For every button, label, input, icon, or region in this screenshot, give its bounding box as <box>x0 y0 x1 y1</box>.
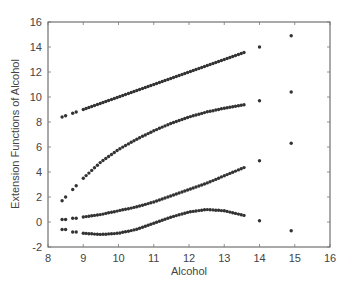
data-point <box>93 104 96 107</box>
scatter-chart: 8910111213141516 -20246810121416 Alcohol… <box>0 0 349 289</box>
y-tick-label: 16 <box>30 16 42 28</box>
x-tick-label: 11 <box>148 252 159 264</box>
data-point <box>84 174 87 177</box>
data-point <box>290 229 293 232</box>
y-tick-label: 4 <box>36 166 42 178</box>
data-point <box>113 210 116 213</box>
data-point <box>208 208 211 211</box>
data-point <box>138 136 141 139</box>
data-point <box>258 219 261 222</box>
data-point <box>60 115 63 118</box>
x-tick-label: 13 <box>218 252 230 264</box>
data-point <box>132 206 135 209</box>
data-point <box>93 214 96 217</box>
data-point <box>138 204 141 207</box>
data-point <box>75 230 78 233</box>
y-tick-label: 2 <box>36 191 42 203</box>
data-point <box>240 213 243 216</box>
data-point <box>177 191 180 194</box>
data-point <box>290 142 293 145</box>
data-point <box>124 230 127 233</box>
data-point <box>177 119 180 122</box>
data-point <box>64 218 67 221</box>
data-point <box>93 232 96 235</box>
data-point <box>64 114 67 117</box>
data-point <box>107 99 110 102</box>
data-point <box>101 159 104 162</box>
x-tick-labels: 8910111213141516 <box>45 252 336 264</box>
data-point <box>234 105 237 108</box>
data-point <box>60 199 63 202</box>
data-point <box>186 211 189 214</box>
data-point <box>93 166 96 169</box>
data-point <box>113 151 116 154</box>
data-point <box>194 209 197 212</box>
x-tick-label: 15 <box>289 252 301 264</box>
data-point <box>64 195 67 198</box>
data-point <box>118 209 121 212</box>
data-point <box>71 217 74 220</box>
data-point <box>104 212 107 215</box>
data-point <box>115 149 118 152</box>
y-tick-label: -2 <box>32 241 42 253</box>
data-point <box>127 207 130 210</box>
data-point <box>90 169 93 172</box>
data-point <box>290 90 293 93</box>
data-point <box>234 54 237 57</box>
data-point <box>242 214 245 217</box>
data-point <box>234 169 237 172</box>
data-point <box>163 218 166 221</box>
data-point <box>82 177 85 180</box>
series-h2 <box>60 90 293 202</box>
data-point <box>124 144 127 147</box>
data-point <box>220 175 223 178</box>
data-point <box>64 228 67 231</box>
x-axis-label: Alcohol <box>171 265 207 277</box>
data-point <box>177 74 180 77</box>
data-point <box>231 211 234 214</box>
data-point <box>242 166 245 169</box>
data-point <box>220 209 223 212</box>
y-tick-label: 12 <box>30 66 42 78</box>
data-point <box>75 110 78 113</box>
data-point <box>124 93 127 96</box>
data-point <box>75 184 78 187</box>
data-point <box>107 232 110 235</box>
data-point <box>290 34 293 37</box>
y-tick-label: 6 <box>36 141 42 153</box>
x-tick-label: 14 <box>253 252 265 264</box>
data-point <box>110 211 113 214</box>
x-tick-label: 10 <box>112 252 124 264</box>
series-h4 <box>60 208 293 236</box>
series-h1-linear- <box>60 34 293 119</box>
data-point <box>234 212 237 215</box>
data-point <box>194 113 197 116</box>
data-point <box>163 124 166 127</box>
data-point <box>96 164 99 167</box>
data-point <box>163 79 166 82</box>
data-point <box>71 112 74 115</box>
data-point <box>138 227 141 230</box>
data-point <box>138 88 141 91</box>
data-point <box>220 107 223 110</box>
data-point <box>104 157 107 160</box>
data-point <box>107 155 110 158</box>
data-point <box>194 185 197 188</box>
data-point <box>194 68 197 71</box>
y-tick-label: 0 <box>36 216 42 228</box>
y-tick-label: 8 <box>36 116 42 128</box>
data-point <box>99 161 102 164</box>
data-point <box>177 213 180 216</box>
data-point <box>163 196 166 199</box>
data-point <box>208 63 211 66</box>
x-tick-label: 8 <box>45 252 51 264</box>
data-point <box>71 230 74 233</box>
y-tick-label: 14 <box>30 41 42 53</box>
data-point <box>242 51 245 54</box>
data-point <box>208 110 211 113</box>
data-point <box>220 59 223 62</box>
x-tick-label: 9 <box>80 252 86 264</box>
data-points <box>60 34 293 236</box>
data-point <box>60 218 63 221</box>
data-point <box>258 45 261 48</box>
